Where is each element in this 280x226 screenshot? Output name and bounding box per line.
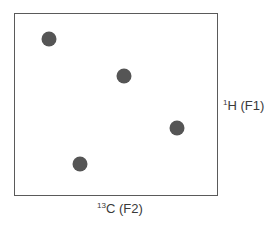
y-axis-dimension: (F1) xyxy=(237,98,264,113)
cross-peak-2 xyxy=(117,68,132,83)
x-axis-nucleus: C xyxy=(106,201,115,216)
x-axis-isotope-mass: 13 xyxy=(97,201,106,210)
x-axis-dimension: (F2) xyxy=(115,201,142,216)
cross-peak-3 xyxy=(169,121,184,136)
cross-peak-4 xyxy=(72,157,87,172)
spectrum-plot-frame xyxy=(14,13,218,196)
x-axis-label: 13C (F2) xyxy=(97,202,143,216)
cross-peak-1 xyxy=(42,32,57,47)
y-axis-label: 1H (F1) xyxy=(223,99,264,113)
y-axis-nucleus: H xyxy=(227,98,236,113)
